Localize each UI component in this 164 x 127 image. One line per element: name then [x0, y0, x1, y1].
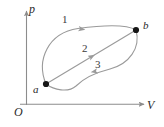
state-point-b: [133, 27, 139, 33]
state-point-a-label: a: [33, 84, 39, 95]
process-path-2-label: 2: [82, 43, 88, 54]
process-path-3-label: 3: [95, 59, 101, 70]
volume-axis-label: V: [147, 99, 154, 111]
state-point-b-label: b: [143, 20, 149, 31]
pressure-axis-label: p: [29, 3, 35, 15]
origin-label: O: [14, 106, 23, 118]
process-path-1: [43, 26, 136, 84]
pv-diagram-canvas: [0, 0, 164, 127]
process-path-1-label: 1: [62, 14, 68, 25]
process-path-3: [46, 30, 137, 90]
pv-diagram-figure: p V O a b 1 2 3: [0, 0, 164, 127]
state-point-a: [43, 81, 49, 87]
